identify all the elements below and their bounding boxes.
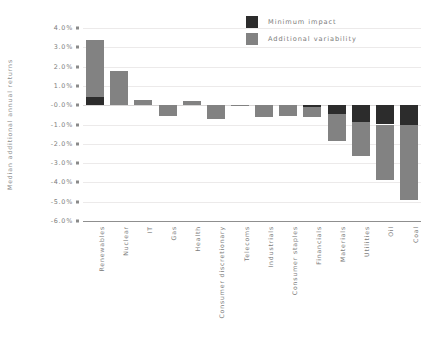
x-axis-tick-label: Materials (339, 226, 346, 336)
x-axis-tick-label: Utilities (363, 226, 370, 336)
gridline (83, 105, 421, 106)
chart-legend: Minimum impact Additional variability (246, 14, 357, 48)
x-axis-tick-label: Coal (412, 226, 419, 336)
bar-segment-additional-variability (279, 105, 297, 116)
y-axis-tick-mark (76, 104, 79, 107)
x-axis-tick-label: IT (146, 226, 153, 336)
x-axis-tick-label: Gas (170, 226, 177, 336)
y-axis-tick-label: -3.0% (27, 159, 73, 167)
bar-segment-additional-variability (400, 125, 418, 199)
x-axis-tick-label: Consumer staples (291, 226, 298, 336)
bar-segment-minimum-impact (328, 105, 346, 114)
y-axis-tick-label: -0.0% (27, 101, 73, 109)
y-axis-title-text: Median additional annual returns (7, 58, 14, 189)
bar-segment-additional-variability (255, 105, 273, 117)
y-axis-tick-mark (76, 200, 79, 203)
gridline (83, 163, 421, 164)
gridline (83, 182, 421, 183)
y-axis-tick-label: -5.0% (27, 198, 73, 206)
legend-item-label: Minimum impact (268, 18, 337, 26)
chart-container: Median additional annual returns 4.0%3.0… (0, 0, 431, 357)
x-axis-tick-label: Financials (315, 226, 322, 336)
legend-swatch-icon (246, 33, 258, 45)
y-axis-tick-mark (76, 27, 79, 30)
y-axis-tick-label: -6.0% (27, 217, 73, 225)
x-axis-tick-label: Health (194, 226, 201, 336)
bar-segment-additional-variability (231, 105, 249, 106)
bar-segment-minimum-impact (400, 105, 418, 125)
legend-item-additional-variability: Additional variability (246, 31, 357, 46)
gridline (83, 144, 421, 145)
bar-segment-additional-variability (110, 71, 128, 105)
bar-segment-additional-variability (159, 105, 177, 116)
y-axis-tick-mark (76, 65, 79, 68)
bar-segment-minimum-impact (352, 105, 370, 121)
x-axis-tick-label: Renewables (98, 226, 105, 336)
bar-segment-additional-variability (134, 100, 152, 105)
legend-item-label: Additional variability (268, 35, 357, 43)
bar-segment-minimum-impact (86, 97, 104, 106)
legend-swatch-icon (246, 16, 258, 28)
gridline (83, 202, 421, 203)
x-axis-tick-label: Telecoms (243, 226, 250, 336)
bar-segment-additional-variability (328, 114, 346, 141)
bar-segment-additional-variability (86, 40, 104, 97)
y-axis-tick-mark (76, 46, 79, 49)
gridline (83, 86, 421, 87)
bar-segment-additional-variability (376, 125, 394, 180)
bar-segment-additional-variability (183, 101, 201, 105)
x-axis-tick-label: Nuclear (122, 226, 129, 336)
y-axis-tick-label: 1.0% (27, 82, 73, 90)
plot-area: 4.0%3.0%2.0%1.0%-0.0%-1.0%-2.0%-3.0%-4.0… (83, 28, 421, 221)
bar-segment-minimum-impact (303, 105, 321, 107)
y-axis-tick-label: -1.0% (27, 121, 73, 129)
y-axis-tick-mark (76, 220, 79, 223)
x-axis-tick-label: Industrials (267, 226, 274, 336)
bar-segment-additional-variability (207, 105, 225, 119)
y-axis-tick-mark (76, 162, 79, 165)
gridline (83, 125, 421, 126)
y-axis-tick-mark (76, 181, 79, 184)
gridline (83, 221, 421, 222)
legend-item-minimum-impact: Minimum impact (246, 14, 357, 29)
x-axis-tick-label: Oil (387, 226, 394, 336)
bar-segment-additional-variability (303, 107, 321, 117)
y-axis-tick-mark (76, 84, 79, 87)
y-axis-title: Median additional annual returns (2, 44, 18, 204)
y-axis-tick-label: 2.0% (27, 63, 73, 71)
y-axis-tick-label: -4.0% (27, 178, 73, 186)
bar-segment-additional-variability (352, 122, 370, 157)
y-axis-tick-mark (76, 123, 79, 126)
y-axis-tick-label: -2.0% (27, 140, 73, 148)
y-axis-tick-label: 4.0% (27, 24, 73, 32)
x-axis-tick-label: Consumer discretionary (218, 226, 225, 336)
bar-segment-minimum-impact (376, 105, 394, 124)
y-axis-tick-label: 3.0% (27, 43, 73, 51)
gridline (83, 67, 421, 68)
y-axis-tick-mark (76, 142, 79, 145)
